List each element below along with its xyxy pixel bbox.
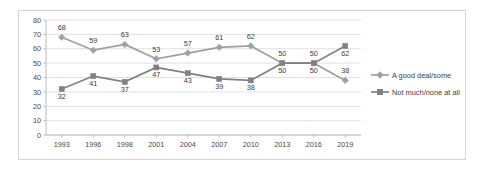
data-point-marker-diamond: [342, 77, 348, 83]
y-axis-tick-label: 80: [33, 16, 41, 25]
data-label: 50: [278, 49, 286, 58]
data-label: 53: [152, 45, 160, 54]
data-label: 39: [215, 82, 223, 91]
data-label: 47: [152, 70, 160, 79]
data-labels-group: 6859635357616250503832413747433938505062: [58, 23, 350, 101]
chart-frame: 01020304050607080 1993199619982001200420…: [18, 10, 466, 160]
data-point-marker-square: [91, 74, 96, 79]
data-point-marker-square: [280, 61, 285, 66]
data-label: 59: [89, 36, 97, 45]
y-axis-tick-labels: 01020304050607080: [33, 16, 41, 140]
data-label: 32: [58, 92, 66, 101]
data-point-marker-square: [311, 61, 316, 66]
line-chart: 01020304050607080 1993199619982001200420…: [19, 11, 467, 161]
x-axis-tick-label: 1996: [85, 140, 101, 149]
data-point-marker-diamond: [153, 56, 159, 62]
y-axis-tick-label: 0: [37, 131, 41, 140]
data-point-marker-square: [343, 43, 348, 48]
data-point-marker-square: [122, 79, 127, 84]
data-label: 38: [341, 66, 349, 75]
data-point-marker-diamond: [59, 34, 65, 40]
data-point-marker-square: [248, 78, 253, 83]
data-label: 68: [58, 23, 66, 32]
data-point-marker-square: [59, 87, 64, 92]
data-label: 63: [121, 30, 129, 39]
x-axis-tick-label: 2001: [148, 140, 164, 149]
chart-legend: A good deal/someNot much/none at all: [371, 71, 460, 97]
y-axis-tick-label: 40: [33, 73, 41, 82]
data-label: 61: [215, 33, 223, 42]
data-label: 50: [310, 49, 318, 58]
x-axis-tick-label: 1998: [117, 140, 133, 149]
x-axis-tick-label: 2010: [243, 140, 259, 149]
data-point-marker-diamond: [216, 44, 222, 50]
series-line-1: [62, 37, 346, 80]
y-axis-tick-label: 20: [33, 102, 41, 111]
x-axis-tick-label: 2016: [306, 140, 322, 149]
data-label: 62: [341, 49, 349, 58]
x-axis-tick-labels: 1993199619982001200420072010201320162019: [54, 140, 354, 149]
y-axis-tick-label: 10: [33, 116, 41, 125]
data-point-marker-diamond: [185, 50, 191, 56]
data-point-marker-square: [217, 76, 222, 81]
x-axis-tick-label: 2019: [337, 140, 353, 149]
x-axis-tick-label: 2007: [211, 140, 227, 149]
data-point-marker-square: [185, 71, 190, 76]
x-axis-tick-label: 2004: [180, 140, 196, 149]
x-axis-tick-label: 1993: [54, 140, 70, 149]
data-label: 38: [247, 83, 255, 92]
data-point-marker-diamond: [248, 43, 254, 49]
data-label: 50: [310, 66, 318, 75]
data-label: 57: [184, 39, 192, 48]
y-axis-tick-label: 50: [33, 59, 41, 68]
chart-plot-area: 01020304050607080 1993199619982001200420…: [19, 11, 467, 161]
data-label: 41: [89, 79, 97, 88]
y-axis-tick-label: 60: [33, 44, 41, 53]
data-point-marker-diamond: [122, 41, 128, 47]
legend-marker-square: [378, 90, 383, 95]
legend-marker-diamond: [377, 72, 383, 78]
legend-label: A good deal/some: [392, 71, 451, 80]
data-label: 62: [247, 32, 255, 41]
data-label: 37: [121, 85, 129, 94]
data-label: 50: [278, 66, 286, 75]
y-axis-tick-label: 30: [33, 88, 41, 97]
data-label: 43: [184, 76, 192, 85]
y-axis-tick-label: 70: [33, 30, 41, 39]
x-axis-tick-label: 2013: [274, 140, 290, 149]
data-point-marker-diamond: [90, 47, 96, 53]
legend-label: Not much/none at all: [392, 88, 460, 97]
series-line-2: [62, 46, 346, 89]
data-point-marker-square: [154, 65, 159, 70]
